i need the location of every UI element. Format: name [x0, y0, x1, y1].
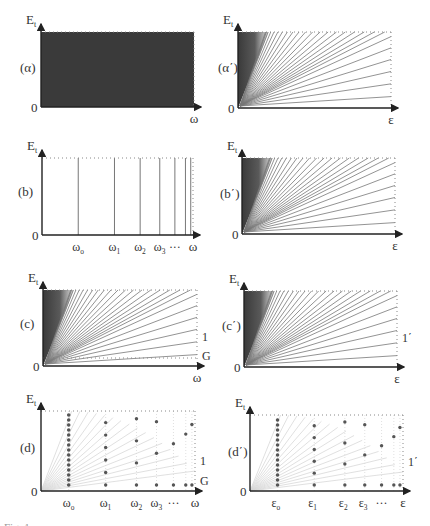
- state-dot: [184, 432, 187, 435]
- state-dot: [363, 423, 366, 426]
- state-dot: [276, 423, 280, 427]
- faint-ray: [250, 458, 387, 491]
- panel-label: (d): [20, 440, 35, 455]
- origin-label: 0: [232, 227, 239, 242]
- state-dot: [313, 471, 316, 474]
- x-tick-label: ω1: [100, 496, 112, 512]
- state-dot: [276, 463, 280, 467]
- faint-ray: [250, 436, 354, 491]
- state-dot: [67, 443, 71, 447]
- ray-line: [244, 223, 395, 232]
- state-dot: [380, 483, 383, 486]
- state-dot: [313, 460, 316, 463]
- state-dot: [313, 424, 316, 427]
- origin-label: 0: [240, 484, 247, 499]
- state-dot: [190, 483, 193, 486]
- ray-line: [45, 355, 197, 364]
- state-dot: [276, 418, 280, 422]
- y-axis-label: Et: [227, 138, 238, 155]
- state-dot: [67, 413, 71, 417]
- panel-label: (α): [20, 60, 35, 75]
- faint-ray: [250, 416, 297, 491]
- y-axis-label: Et: [27, 138, 38, 155]
- y-axis-label: Et: [223, 12, 234, 29]
- origin-label: 0: [32, 228, 39, 243]
- x-tick-label: ε2: [339, 496, 348, 512]
- state-dot: [398, 483, 401, 486]
- origin-label: 0: [33, 359, 40, 374]
- state-dot: [104, 483, 107, 486]
- x-tick-label: ω2: [130, 496, 142, 512]
- x-axis-label: ω: [191, 495, 200, 510]
- x-axis-label: ω: [190, 111, 199, 126]
- x-axis-label: ω: [189, 239, 198, 254]
- state-dot: [67, 433, 71, 437]
- state-dot: [276, 473, 280, 477]
- state-dot: [276, 443, 280, 447]
- state-dot: [104, 433, 107, 436]
- y-axis-label: Et: [235, 395, 246, 412]
- state-dot: [67, 423, 71, 427]
- state-dot: [276, 438, 280, 442]
- state-dot: [172, 442, 175, 445]
- x-tick-label: ε1: [308, 496, 317, 512]
- x-axis-label: ε: [388, 112, 394, 127]
- curve-label: 1΄: [408, 455, 418, 469]
- panel-d: Et(d)0ωωoω1ω2ω3···1G: [20, 391, 209, 512]
- state-dot: [190, 423, 193, 426]
- state-dot: [380, 444, 383, 447]
- x-axis-label: ε: [392, 238, 398, 253]
- curve-label: G: [200, 474, 209, 488]
- state-dot: [67, 478, 71, 482]
- state-dot: [135, 461, 138, 464]
- curve-label: 1: [200, 454, 206, 468]
- panel-label: (d΄): [228, 444, 248, 459]
- x-tick-label: ···: [376, 496, 388, 510]
- panel-c: Et(c)0ω1G: [20, 270, 211, 385]
- faint-ray: [250, 421, 321, 491]
- x-tick-label: ω2: [134, 240, 146, 256]
- state-dot: [363, 483, 366, 486]
- state-dot: [313, 448, 316, 451]
- y-axis-label: Et: [26, 12, 37, 29]
- state-dot: [343, 483, 346, 486]
- state-dot: [392, 483, 395, 486]
- panel-label: (b΄): [220, 186, 240, 201]
- x-tick-label: ωo: [72, 240, 84, 256]
- panel-alpha: Et(α)0ω: [20, 12, 201, 126]
- y-axis-label: Et: [28, 270, 39, 287]
- state-dot: [276, 483, 280, 487]
- state-dot: [135, 439, 138, 442]
- faint-ray: [250, 446, 370, 491]
- state-dot: [276, 433, 280, 437]
- state-dot: [104, 471, 107, 474]
- x-tick-label: ···: [167, 496, 179, 510]
- figure-caption: Fig. 1: [4, 518, 428, 526]
- panel-b_prime: Et(b΄)0ε: [220, 138, 402, 253]
- curve-label: 1: [202, 330, 208, 344]
- curve-label: 1΄: [402, 331, 412, 345]
- origin-label: 0: [228, 101, 235, 116]
- state-dot: [155, 452, 158, 455]
- state-dot: [67, 473, 71, 477]
- state-dot: [184, 483, 187, 486]
- state-dot: [276, 448, 280, 452]
- state-dot: [276, 478, 280, 482]
- faint-ray: [41, 412, 88, 491]
- panel-alpha_prime: Et(α΄)0ε: [218, 12, 398, 127]
- faint-ray: [41, 418, 113, 491]
- origin-label: 0: [31, 484, 38, 499]
- state-dot: [398, 426, 401, 429]
- state-dot: [104, 421, 107, 424]
- x-tick-label: ε3: [359, 496, 368, 512]
- state-dot: [363, 453, 366, 456]
- faint-ray: [41, 433, 146, 491]
- state-dot: [392, 435, 395, 438]
- faint-ray: [41, 443, 162, 491]
- y-axis-label: Et: [26, 391, 37, 408]
- panel-label: (α΄): [218, 60, 238, 75]
- state-dot: [104, 458, 107, 461]
- panel-d_prime: Et(d΄)0εεoε1ε2ε3···1΄: [228, 395, 418, 512]
- faint-ray: [41, 471, 195, 491]
- state-dot: [276, 428, 280, 432]
